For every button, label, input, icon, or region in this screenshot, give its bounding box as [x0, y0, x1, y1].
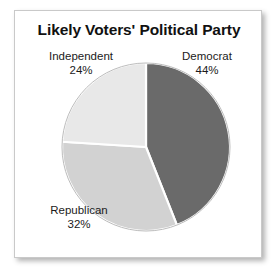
chart-card: Likely Voters' Political Party Independe… [14, 10, 262, 258]
pie-label-independent: Independent 24% [25, 49, 137, 77]
pie-label-democrat-value: 44% [157, 63, 257, 77]
pie-label-independent-value: 24% [25, 63, 137, 77]
pie-label-republican: Republican 32% [23, 203, 135, 231]
pie-label-republican-value: 32% [23, 217, 135, 231]
pie-label-independent-name: Independent [49, 50, 113, 62]
pie-label-democrat: Democrat 44% [157, 49, 257, 77]
pie-label-republican-name: Republican [50, 204, 108, 216]
pie-label-democrat-name: Democrat [182, 50, 232, 62]
